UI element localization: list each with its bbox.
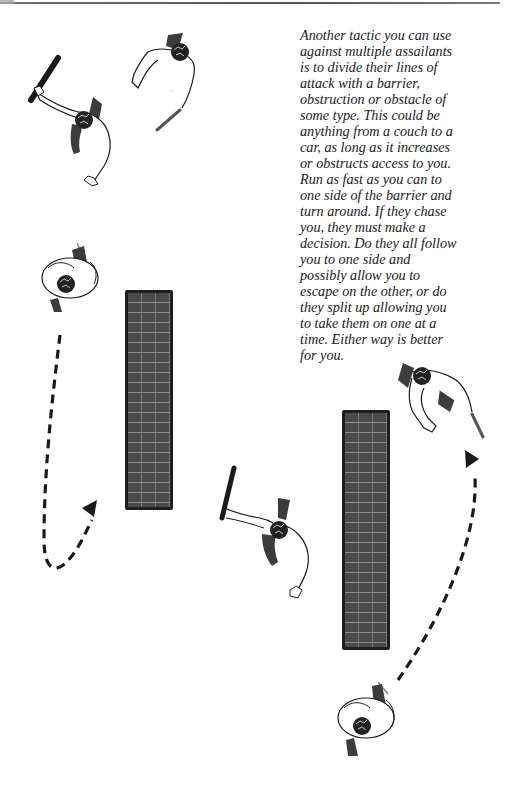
- illustration-layer: [0, 0, 515, 786]
- dashed-path-2: [398, 478, 475, 680]
- attacker-knife-figure-2: [398, 363, 483, 437]
- attacker-knife-figure-1: [132, 33, 194, 130]
- dashed-path-1: [44, 335, 92, 568]
- knife-icon: [472, 414, 483, 437]
- arrowhead-icon: [465, 450, 479, 468]
- defender-figure-1: [42, 243, 98, 312]
- book-page: Another tactic you can use against multi…: [0, 0, 515, 786]
- defender-figure-2: [338, 682, 394, 756]
- knife-icon: [157, 110, 180, 130]
- attacker-baton-figure-2: [222, 468, 308, 598]
- arrowhead-icon: [82, 500, 97, 517]
- attacker-baton-figure-1: [31, 58, 110, 186]
- baton-icon: [31, 58, 58, 100]
